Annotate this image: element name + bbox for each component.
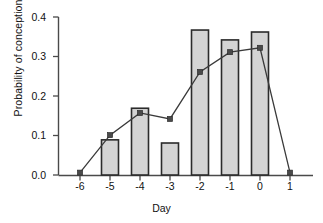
bar: [162, 143, 179, 175]
bar: [252, 32, 269, 175]
plot-area: [0, 0, 323, 223]
bar: [192, 30, 209, 175]
chart-container: Probability of conception Day 0.4 0.3 0.…: [0, 0, 323, 223]
data-point-marker: [228, 50, 233, 55]
data-point-marker: [258, 45, 263, 50]
bar-series: [102, 30, 269, 175]
data-point-marker: [108, 133, 113, 138]
data-point-marker: [78, 170, 83, 175]
data-point-marker: [288, 170, 293, 175]
bar: [102, 140, 119, 175]
bar: [132, 108, 149, 175]
data-point-marker: [168, 116, 173, 121]
data-point-marker: [138, 110, 143, 115]
bar: [222, 40, 239, 175]
data-point-marker: [198, 69, 203, 74]
